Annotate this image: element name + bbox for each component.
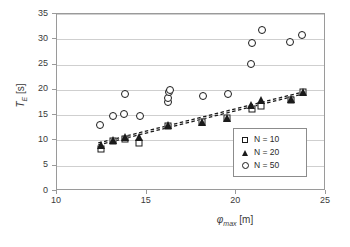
x-tick-label: 10: [51, 196, 61, 205]
data-point-n20: [247, 101, 255, 109]
data-point-n20: [287, 95, 295, 103]
y-axis-unit: [s]: [15, 83, 26, 94]
legend-marker-icon: [239, 150, 251, 156]
data-point-n20: [109, 136, 117, 144]
legend-item: N = 20: [239, 146, 301, 159]
data-point-n20: [97, 141, 105, 149]
x-tick-label: 25: [320, 196, 330, 205]
data-point-n20: [223, 114, 231, 122]
y-tick-label: 30: [38, 34, 48, 43]
y-tick-label: 15: [38, 110, 48, 119]
legend-label: N = 20: [254, 148, 279, 157]
x-axis-label: φmax [m]: [0, 214, 350, 229]
scatter-plot-figure: 05101520253035 TE [s] 10152025 φmax [m] …: [0, 0, 350, 247]
y-axis-subscript: E: [21, 97, 28, 102]
y-axis-label: TE [s]: [15, 66, 30, 126]
y-axis-symbol: T: [15, 101, 26, 107]
legend-item: N = 10: [239, 133, 301, 146]
y-tick-label: 10: [38, 135, 48, 144]
legend: N = 10N = 20N = 50: [233, 128, 307, 177]
filled-triangle-icon: [242, 150, 248, 156]
data-point-n20: [299, 88, 307, 96]
legend-label: N = 10: [254, 135, 279, 144]
legend-label: N = 50: [254, 161, 279, 170]
data-point-n20: [135, 133, 143, 141]
x-axis-subscript: max: [223, 220, 236, 227]
y-tick-label: 20: [38, 84, 48, 93]
y-tick-label: 5: [43, 160, 48, 169]
data-point-n20: [164, 121, 172, 129]
data-point-n20: [257, 96, 265, 104]
x-axis-unit: [m]: [239, 214, 253, 225]
x-tick-mark: [146, 190, 147, 194]
y-tick-label: 25: [38, 59, 48, 68]
x-tick-mark: [235, 190, 236, 194]
y-tick-label: 35: [38, 9, 48, 18]
legend-item: N = 50: [239, 159, 301, 172]
x-tick-label: 20: [230, 196, 240, 205]
data-point-n20: [198, 118, 206, 126]
open-circle-icon: [242, 162, 249, 169]
data-point-n20: [121, 133, 129, 141]
legend-marker-icon: [239, 162, 251, 169]
x-tick-mark: [325, 190, 326, 194]
x-tick-mark: [56, 190, 57, 194]
legend-marker-icon: [239, 137, 251, 143]
y-tick-label: 0: [43, 186, 48, 195]
open-square-icon: [242, 137, 248, 143]
x-tick-label: 15: [141, 196, 151, 205]
